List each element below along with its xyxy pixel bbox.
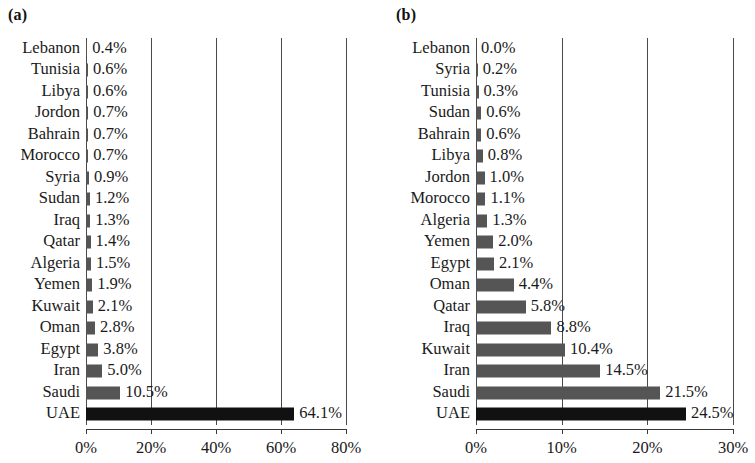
- bar-row: Saudi10.5%: [0, 382, 378, 404]
- bar: [86, 343, 98, 356]
- x-axis-tick-label: 0%: [75, 438, 97, 458]
- bar-row: Iran14.5%: [378, 361, 755, 383]
- bar-value-label: 0.2%: [478, 62, 517, 79]
- x-axis-tick-label: 30%: [718, 438, 748, 458]
- bar-row: Iraq8.8%: [378, 318, 755, 340]
- category-label: Libya: [42, 83, 81, 100]
- axis-tick: [216, 429, 217, 434]
- category-label: Tunisia: [421, 83, 470, 100]
- x-axis-tick-label: 80%: [331, 438, 361, 458]
- bar-row: Bahrain0.6%: [378, 124, 755, 146]
- bar: [476, 365, 600, 378]
- bar-value-label: 1.3%: [90, 212, 129, 229]
- category-label: Tunisia: [31, 62, 80, 79]
- bar-value-label: 24.5%: [686, 406, 734, 423]
- bar-value-label: 0.9%: [89, 169, 128, 186]
- axis-tick: [86, 429, 87, 434]
- x-axis-tick-label: 60%: [266, 438, 296, 458]
- category-label: Sudan: [39, 191, 80, 208]
- bar-value-label: 1.2%: [90, 191, 129, 208]
- bar-row: Oman2.8%: [0, 318, 378, 340]
- bar-row: Morocco0.7%: [0, 146, 378, 168]
- bar-row: Lebanon0.0%: [378, 38, 755, 60]
- bar-row: Kuwait10.4%: [378, 339, 755, 361]
- bar-row: Lebanon0.4%: [0, 38, 378, 60]
- category-label: Iraq: [53, 212, 80, 229]
- category-label: Bahrain: [418, 126, 470, 143]
- bar-row: Iraq1.3%: [0, 210, 378, 232]
- category-label: Iraq: [443, 320, 470, 337]
- bar-value-label: 0.6%: [88, 62, 127, 79]
- panel-a-caption: (a): [8, 6, 27, 24]
- bar-value-label: 0.6%: [481, 126, 520, 143]
- bar: [476, 236, 493, 249]
- bar-row: Qatar5.8%: [378, 296, 755, 318]
- bar-value-label: 1.5%: [91, 255, 130, 272]
- bar: [476, 193, 485, 206]
- axis-tick: [346, 429, 347, 434]
- bar-value-label: 5.8%: [526, 298, 565, 315]
- bar: [476, 279, 514, 292]
- bar-value-label: 5.0%: [102, 363, 141, 380]
- bar: [86, 322, 95, 335]
- bar: [476, 214, 487, 227]
- plot-area-a: 0%20%40%60%80%Lebanon0.4%Tunisia0.6%Liby…: [0, 34, 378, 454]
- bar-value-label: 1.9%: [92, 277, 131, 294]
- bar: [476, 300, 526, 313]
- bar-row: UAE24.5%: [378, 404, 755, 426]
- bar-value-label: 10.4%: [565, 341, 613, 358]
- bar-row: Yemen2.0%: [378, 232, 755, 254]
- bar-value-label: 1.4%: [91, 234, 130, 251]
- axis-tick: [281, 429, 282, 434]
- category-label: Iran: [443, 363, 470, 380]
- bar: [86, 300, 93, 313]
- bar-value-label: 8.8%: [551, 320, 590, 337]
- bar: [476, 171, 485, 184]
- category-label: Kuwait: [421, 341, 470, 358]
- bar-value-label: 0.6%: [88, 83, 127, 100]
- axis-tick: [476, 429, 477, 434]
- bar-row: Algeria1.5%: [0, 253, 378, 275]
- bar-row: Saudi21.5%: [378, 382, 755, 404]
- category-label: Saudi: [42, 384, 80, 401]
- bar-row: Syria0.2%: [378, 60, 755, 82]
- bar-row: Tunisia0.3%: [378, 81, 755, 103]
- x-axis-tick-label: 20%: [136, 438, 166, 458]
- bar: [86, 408, 294, 421]
- bar-row: Libya0.8%: [378, 146, 755, 168]
- category-label: Morocco: [20, 148, 80, 165]
- category-label: Algeria: [31, 255, 80, 272]
- category-label: Kuwait: [31, 298, 80, 315]
- bar-value-label: 64.1%: [294, 406, 342, 423]
- bar: [476, 150, 483, 163]
- bar-value-label: 0.7%: [88, 148, 127, 165]
- category-label: Qatar: [433, 298, 470, 315]
- category-label: Jordon: [425, 169, 470, 186]
- bar-row: Yemen1.9%: [0, 275, 378, 297]
- x-axis-tick-label: 40%: [201, 438, 231, 458]
- bar-value-label: 2.0%: [493, 234, 532, 251]
- bar-row: Oman4.4%: [378, 275, 755, 297]
- category-label: Yemen: [424, 234, 470, 251]
- x-axis-tick-label: 10%: [547, 438, 577, 458]
- panel-b-caption: (b): [396, 6, 416, 24]
- bar-row: Morocco1.1%: [378, 189, 755, 211]
- bar-value-label: 1.0%: [485, 169, 524, 186]
- bar: [476, 408, 686, 421]
- category-label: Iran: [53, 363, 80, 380]
- category-label: Lebanon: [22, 40, 80, 57]
- plot-area-b: 0%10%20%30%Lebanon0.0%Syria0.2%Tunisia0.…: [378, 34, 755, 454]
- bar-value-label: 2.1%: [93, 298, 132, 315]
- bar-row: Iran5.0%: [0, 361, 378, 383]
- category-label: Bahrain: [28, 126, 80, 143]
- bar-value-label: 2.1%: [494, 255, 533, 272]
- bar: [476, 322, 551, 335]
- bar: [86, 386, 120, 399]
- bar-value-label: 0.3%: [479, 83, 518, 100]
- axis-tick: [647, 429, 648, 434]
- category-label: Egypt: [431, 255, 470, 272]
- bar-value-label: 14.5%: [600, 363, 648, 380]
- category-label: Lebanon: [412, 40, 470, 57]
- category-label: UAE: [46, 406, 80, 423]
- bar-row: Algeria1.3%: [378, 210, 755, 232]
